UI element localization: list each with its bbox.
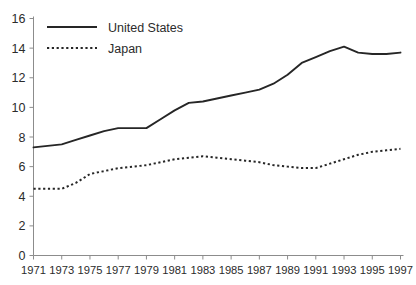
y-axis-tick-label: 2 [19, 219, 26, 233]
x-axis-tick-label: 1971 [21, 264, 46, 276]
x-axis-tick-label: 1973 [49, 264, 74, 276]
y-axis-tick-label: 8 [19, 131, 26, 145]
y-axis-tick-label: 14 [12, 42, 26, 56]
chart-background [0, 0, 416, 285]
x-axis-tick-label: 1981 [162, 264, 187, 276]
x-axis-tick-label: 1987 [247, 264, 272, 276]
x-axis-tick-label: 1977 [106, 264, 131, 276]
y-axis-tick-label: 0 [19, 249, 26, 263]
y-axis-tick-label: 10 [12, 101, 26, 115]
x-axis-tick-label: 1985 [219, 264, 244, 276]
y-axis-tick-label: 6 [19, 160, 26, 174]
y-axis-tick-label: 16 [12, 12, 26, 26]
chart-canvas: 0246810121416 19711973197519771979198119… [0, 0, 416, 285]
x-axis-tick-label: 1991 [303, 264, 328, 276]
x-axis-tick-label: 1983 [190, 264, 215, 276]
x-axis-tick-label: 1979 [134, 264, 159, 276]
y-axis-tick-label: 4 [19, 190, 26, 204]
x-axis-tick-label: 1997 [388, 264, 413, 276]
x-axis-tick-label: 1989 [275, 264, 300, 276]
y-axis-tick-label: 12 [12, 71, 26, 85]
x-axis-tick-label: 1993 [332, 264, 357, 276]
legend-label-japan: Japan [108, 42, 142, 56]
legend-label-united-states: United States [108, 21, 183, 35]
x-axis-tick-label: 1995 [360, 264, 385, 276]
line-chart: 0246810121416 19711973197519771979198119… [0, 0, 416, 285]
x-axis-tick-label: 1975 [78, 264, 103, 276]
